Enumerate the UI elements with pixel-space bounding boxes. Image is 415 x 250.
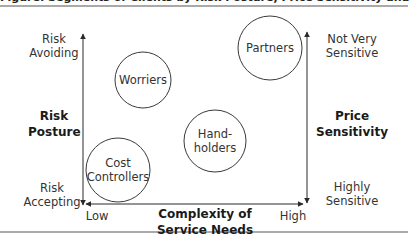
complexity-line-2: Service Needs bbox=[150, 222, 260, 238]
not-very-sensitive-line-2: Sensitive bbox=[316, 46, 388, 60]
highly-sensitive-line-1: Highly bbox=[316, 180, 388, 194]
price-sensitivity-line-2: Sensitivity bbox=[312, 124, 392, 140]
low-label: Low bbox=[82, 209, 112, 223]
price-sensitivity-line-1: Price bbox=[312, 108, 392, 124]
risk-avoiding-line-2: Avoiding bbox=[26, 46, 82, 60]
hand-holders-label: Hand- holders bbox=[194, 127, 237, 155]
risk-accepting-label: Risk Accepting bbox=[20, 181, 84, 209]
not-very-sensitive-label: Not Very Sensitive bbox=[316, 32, 388, 60]
not-very-sensitive-line-1: Not Very bbox=[316, 32, 388, 46]
complexity-line-1: Complexity of bbox=[150, 206, 260, 222]
risk-accepting-line-1: Risk bbox=[20, 181, 84, 195]
highly-sensitive-line-2: Sensitive bbox=[316, 194, 388, 208]
partners-label: Partners bbox=[246, 41, 294, 55]
risk-posture-title: Risk Posture bbox=[28, 108, 80, 140]
risk-avoiding-line-1: Risk bbox=[26, 32, 82, 46]
risk-posture-line-1: Risk bbox=[28, 108, 80, 124]
complexity-title: Complexity of Service Needs bbox=[150, 206, 260, 238]
cost-controllers-label: Cost Controllers bbox=[87, 156, 150, 184]
risk-accepting-line-2: Accepting bbox=[20, 195, 84, 209]
risk-posture-line-2: Posture bbox=[28, 124, 80, 140]
worriers-label: Worriers bbox=[119, 73, 167, 87]
highly-sensitive-label: Highly Sensitive bbox=[316, 180, 388, 208]
high-label: High bbox=[278, 209, 308, 223]
risk-avoiding-label: Risk Avoiding bbox=[26, 32, 82, 60]
price-sensitivity-title: Price Sensitivity bbox=[312, 108, 392, 140]
